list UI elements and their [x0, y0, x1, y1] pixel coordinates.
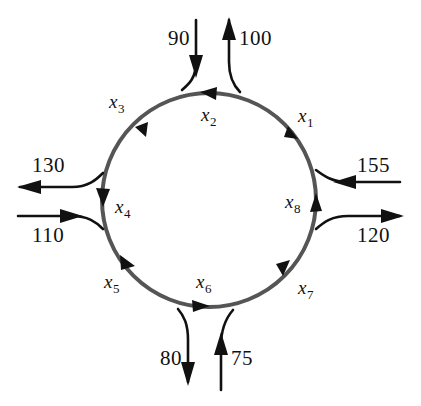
arc-label-x3-base: x	[109, 91, 117, 112]
arc-label-x1-base: x	[298, 105, 306, 126]
flow-line-out-top-right	[222, 17, 240, 92]
arc-label-x8: x8	[285, 192, 300, 215]
arc-label-x2-base: x	[201, 104, 209, 125]
arc-label-x8-subscript: 8	[294, 201, 301, 216]
arc-label-x5-subscript: 5	[113, 281, 120, 296]
flow-label-75: 75	[231, 348, 253, 369]
traffic-flow-diagram: 90 100 155 120 80 75 130 110 x1 x2 x3 x4…	[0, 0, 421, 406]
flow-label-100: 100	[239, 28, 272, 49]
flow-label-155: 155	[357, 155, 390, 176]
flow-label-80: 80	[160, 348, 182, 369]
arc-label-x7: x7	[298, 278, 313, 301]
arc-label-x8-base: x	[285, 191, 293, 212]
arc-label-x5-base: x	[104, 271, 112, 292]
traffic-network-svg	[0, 0, 421, 406]
arc-label-x5: x5	[104, 272, 119, 295]
arc-label-x6-base: x	[196, 271, 204, 292]
arc-label-x6-subscript: 6	[205, 281, 212, 296]
arc-label-x4-base: x	[115, 196, 123, 217]
arc-arrowhead-x4	[96, 188, 110, 207]
arc-arrowhead-x8	[310, 193, 322, 212]
arc-label-x2: x2	[201, 105, 216, 128]
flow-label-130: 130	[32, 155, 65, 176]
arc-label-x4-subscript: 4	[124, 206, 131, 221]
arc-arrowhead-x5	[120, 255, 135, 270]
flow-label-90: 90	[168, 28, 190, 49]
arc-label-x3: x3	[109, 92, 124, 115]
arc-label-x6: x6	[196, 272, 211, 295]
arc-label-x2-subscript: 2	[210, 114, 217, 129]
arc-label-x1: x1	[298, 106, 313, 129]
flow-label-120: 120	[357, 225, 390, 246]
arc-label-x4: x4	[115, 197, 130, 220]
arc-label-x7-base: x	[298, 277, 306, 298]
arc-label-x3-subscript: 3	[118, 101, 125, 116]
arc-arrowhead-x3	[135, 122, 148, 137]
arc-label-x1-subscript: 1	[307, 115, 314, 130]
arc-label-x7-subscript: 7	[307, 287, 314, 302]
flow-label-110: 110	[32, 225, 64, 246]
arc-arrowhead-x6	[192, 300, 210, 312]
